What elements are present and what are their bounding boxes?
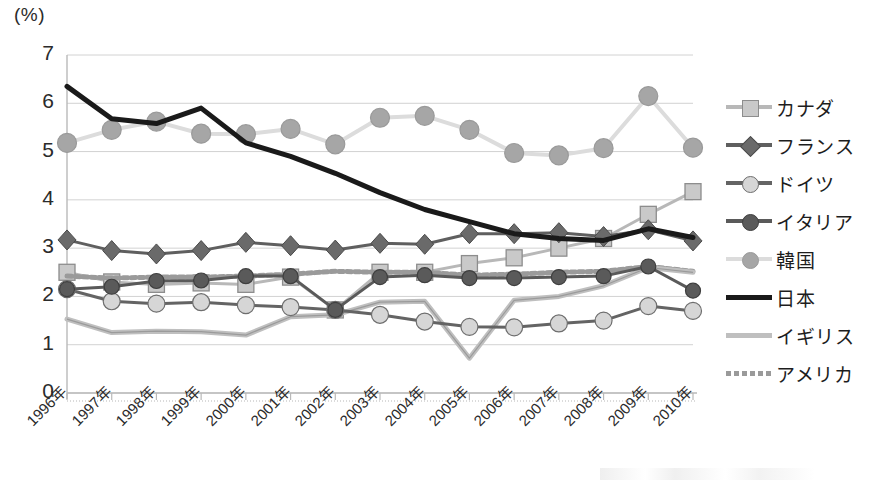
legend-item-france[interactable]: フランス [726, 126, 866, 164]
data-point [283, 269, 298, 284]
legend-swatch [726, 96, 772, 118]
data-point [639, 87, 658, 106]
data-point [281, 119, 300, 138]
legend-item-germany[interactable]: ドイツ [726, 164, 866, 202]
data-point [417, 268, 432, 283]
data-point [415, 106, 434, 125]
data-point [595, 312, 612, 329]
legend-swatch [726, 210, 772, 232]
chart-legend: カナダフランスドイツイタリア韓国日本イギリスアメリカ [726, 88, 866, 392]
data-point [282, 236, 300, 256]
data-point [328, 302, 343, 317]
data-point [684, 138, 703, 157]
y-axis-tick-label: 5 [20, 138, 54, 162]
data-point [148, 295, 165, 312]
legend-swatch [726, 134, 772, 156]
legend-swatch [726, 248, 772, 270]
legend-label: 韓国 [776, 246, 815, 273]
data-point [103, 241, 121, 261]
data-point [238, 269, 253, 284]
legend-diamond-icon [739, 135, 760, 156]
data-point [193, 294, 210, 311]
data-point [507, 271, 522, 286]
data-point [461, 318, 478, 335]
legend-line-icon [726, 333, 772, 338]
y-axis-tick-label: 2 [20, 282, 54, 306]
data-point [685, 184, 701, 200]
legend-item-korea[interactable]: 韓国 [726, 240, 866, 278]
data-point [373, 270, 388, 285]
data-point [326, 240, 344, 260]
data-point [237, 297, 254, 314]
data-point [371, 233, 389, 253]
data-point [641, 259, 656, 274]
legend-label: 日本 [776, 284, 815, 311]
legend-label: ドイツ [776, 170, 835, 197]
legend-swatch [726, 172, 772, 194]
data-point [549, 146, 568, 165]
legend-label: イギリス [776, 322, 854, 349]
legend-circle-icon [742, 176, 759, 193]
data-point [461, 256, 477, 272]
data-point [282, 299, 299, 316]
data-point [147, 244, 165, 264]
scan-artifact [600, 468, 850, 480]
data-point [194, 273, 209, 288]
data-point [416, 313, 433, 330]
data-point [506, 319, 523, 336]
legend-item-italy[interactable]: イタリア [726, 202, 866, 240]
data-point [192, 124, 211, 143]
legend-line-icon [726, 371, 772, 376]
chart-container: (%) 01234567 1996年1997年1998年1999年2000年20… [0, 0, 869, 486]
data-point [506, 250, 522, 266]
data-point [58, 133, 77, 152]
legend-label: アメリカ [776, 360, 853, 387]
data-point [596, 269, 611, 284]
data-point [102, 120, 121, 139]
data-point [505, 144, 524, 163]
data-point [416, 234, 434, 254]
legend-swatch [726, 286, 772, 308]
legend-swatch [726, 324, 772, 346]
data-point [237, 232, 255, 252]
legend-item-uk[interactable]: イギリス [726, 316, 866, 354]
data-point [551, 270, 566, 285]
legend-circle-icon [742, 214, 759, 231]
data-point [371, 108, 390, 127]
legend-label: カナダ [776, 94, 835, 121]
data-point [326, 135, 345, 154]
data-point [104, 279, 119, 294]
legend-label: フランス [776, 132, 854, 159]
y-axis-tick-label: 3 [20, 234, 54, 258]
data-point [372, 306, 389, 323]
legend-label: イタリア [776, 208, 853, 235]
data-point [460, 224, 478, 244]
data-point [462, 271, 477, 286]
data-point [60, 282, 75, 297]
data-point [685, 302, 702, 319]
data-point [550, 315, 567, 332]
data-point [58, 230, 76, 250]
data-point [192, 241, 210, 261]
y-axis-tick-label: 7 [20, 41, 54, 65]
data-point [103, 293, 120, 310]
legend-circle-icon [742, 252, 759, 269]
y-axis-tick-label: 1 [20, 331, 54, 355]
data-point [460, 120, 479, 139]
legend-line-icon [726, 295, 772, 300]
data-point [594, 139, 613, 158]
legend-item-japan[interactable]: 日本 [726, 278, 866, 316]
legend-item-usa[interactable]: アメリカ [726, 354, 866, 392]
legend-item-canada[interactable]: カナダ [726, 88, 866, 126]
data-point [686, 283, 701, 298]
legend-swatch [726, 362, 772, 384]
y-axis-tick-label: 4 [20, 186, 54, 210]
data-point [149, 273, 164, 288]
data-point [640, 298, 657, 315]
y-axis-tick-label: 6 [20, 89, 54, 113]
legend-square-icon [742, 100, 759, 117]
